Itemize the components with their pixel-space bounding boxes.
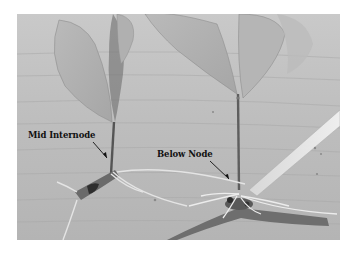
below-node-label: Below Node: [157, 149, 213, 159]
mid-internode-label: Mid Internode: [28, 130, 95, 140]
plant-cuttings-photo: Mid Internode Below Node: [17, 14, 340, 240]
photo-illustration: [17, 14, 340, 240]
